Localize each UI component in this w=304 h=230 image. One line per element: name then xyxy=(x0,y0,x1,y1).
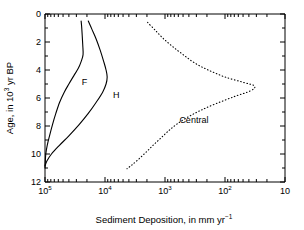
y-tick-label: 6 xyxy=(36,93,41,103)
y-tick-label: 0 xyxy=(36,9,41,19)
series-label-central: Central xyxy=(179,115,208,125)
x-axis-title-group: Sediment Deposition, in mm yr−1 xyxy=(96,213,233,225)
y-tick-label: 4 xyxy=(36,65,41,75)
x-tick-label: 102 xyxy=(218,184,232,196)
x-tick-label: 104 xyxy=(98,184,112,196)
plot-frame xyxy=(45,14,285,182)
data-series-group xyxy=(45,21,255,169)
x-tick-label: 10 xyxy=(280,186,290,196)
axis-frame xyxy=(45,14,285,182)
y-axis-tick-labels: 024681012 xyxy=(31,9,41,187)
series-curve-h xyxy=(45,21,107,166)
y-tick-label: 8 xyxy=(36,121,41,131)
x-tick-label: 105 xyxy=(38,184,52,196)
x-axis-title: Sediment Deposition, in mm yr−1 xyxy=(96,213,233,225)
y-tick-label: 2 xyxy=(36,37,41,47)
series-label-h: H xyxy=(113,90,120,100)
series-curve-f xyxy=(45,21,83,168)
chart-canvas: 024681012 10510410310210 FHCentral Sedim… xyxy=(0,0,304,230)
series-curve-central xyxy=(127,22,255,168)
series-inline-labels: FHCentral xyxy=(82,77,209,125)
y-axis-title-group: Age, in 103 yr BP xyxy=(3,62,15,134)
x-tick-label: 103 xyxy=(158,184,172,196)
series-label-f: F xyxy=(82,77,88,87)
chart-figure: 024681012 10510410310210 FHCentral Sedim… xyxy=(0,0,304,230)
y-tick-label: 10 xyxy=(31,149,41,159)
y-axis-title: Age, in 103 yr BP xyxy=(3,62,15,134)
x-axis-ticks xyxy=(45,14,285,182)
x-axis-tick-labels: 10510410310210 xyxy=(38,184,290,196)
y-axis-ticks xyxy=(45,14,285,182)
